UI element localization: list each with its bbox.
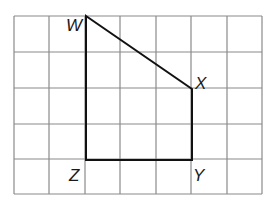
vertex-label-w: W (66, 16, 84, 35)
vertex-label-z: Z (68, 166, 80, 185)
grid-diagram: W X Y Z (0, 0, 272, 210)
vertex-label-x: X (194, 74, 207, 93)
grid-lines (14, 16, 262, 194)
vertex-label-y: Y (193, 166, 206, 185)
